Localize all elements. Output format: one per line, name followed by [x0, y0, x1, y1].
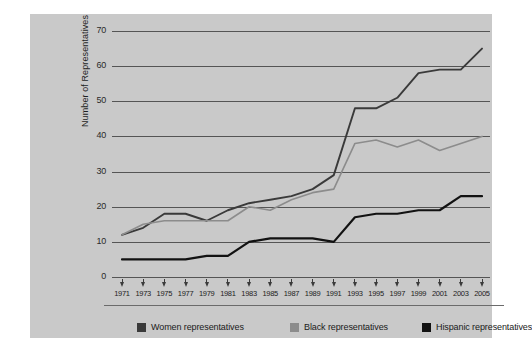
legend-label: Black representatives — [304, 322, 388, 332]
x-axis-tick-arrow — [120, 282, 124, 287]
x-axis-tick-arrow — [247, 282, 251, 287]
series-line — [122, 49, 482, 235]
x-axis-tick-arrow — [141, 282, 145, 287]
x-axis-tick-arrow — [353, 282, 357, 287]
x-axis-tick-arrow — [480, 282, 484, 287]
legend-label: Women representatives — [151, 322, 244, 332]
x-axis-tick-arrow — [374, 282, 378, 287]
x-axis-tick-arrow — [205, 282, 209, 287]
chart-panel: Number of Representatives 01020304050607… — [30, 14, 492, 338]
x-axis-tick-arrow — [416, 282, 420, 287]
chart-legend: Women representativesBlack representativ… — [82, 322, 502, 340]
x-axis-tick-arrow — [184, 282, 188, 287]
legend-item[interactable]: Black representatives — [290, 322, 388, 332]
x-axis-tick-arrow — [226, 282, 230, 287]
legend-item[interactable]: Women representatives — [137, 322, 244, 332]
legend-separator-rule — [104, 305, 504, 306]
plot-area: Number of Representatives 01020304050607… — [82, 31, 490, 277]
legend-swatch-icon — [290, 323, 299, 332]
legend-swatch-icon — [422, 323, 431, 332]
x-axis-tick-arrow — [395, 282, 399, 287]
x-axis-line — [112, 277, 490, 278]
x-axis-tick-arrow — [268, 282, 272, 287]
x-axis-tick-arrow — [332, 282, 336, 287]
legend-item[interactable]: Hispanic representatives — [422, 322, 532, 332]
legend-swatch-icon — [137, 323, 146, 332]
x-axis-tick-arrow — [459, 282, 463, 287]
x-axis-tick-arrow — [311, 282, 315, 287]
series-line — [122, 136, 482, 234]
x-axis-tick-label: 2005 — [469, 289, 495, 298]
x-axis-tick-arrow — [289, 282, 293, 287]
x-axis-tick-arrow — [162, 282, 166, 287]
series-line — [122, 196, 482, 259]
series-lines — [82, 31, 490, 277]
x-axis-tick-arrow — [438, 282, 442, 287]
legend-label: Hispanic representatives — [436, 322, 532, 332]
